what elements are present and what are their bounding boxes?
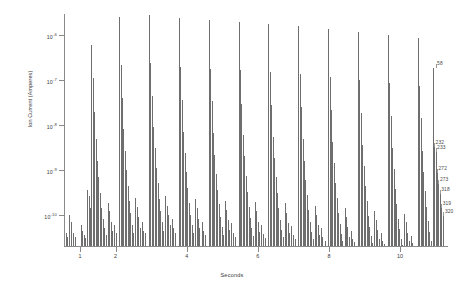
y-tick-label: 10-8 xyxy=(0,122,57,130)
spike xyxy=(85,238,86,246)
spike xyxy=(342,241,343,246)
spike xyxy=(289,233,290,246)
spike xyxy=(443,215,444,246)
spike xyxy=(233,233,234,246)
y-tick-label: 10-6 xyxy=(0,32,57,40)
spike xyxy=(143,231,144,246)
x-tick-label: 1 xyxy=(70,253,90,259)
spike xyxy=(412,243,413,246)
spike xyxy=(229,230,230,246)
spike xyxy=(283,237,284,246)
spike xyxy=(199,228,200,246)
spike xyxy=(170,225,171,246)
spike-series xyxy=(64,14,448,246)
annotation-label: 319 xyxy=(443,201,451,206)
spike xyxy=(382,241,383,246)
y-tick-label: 10-9 xyxy=(0,167,57,175)
annotation-label: 233 xyxy=(437,145,445,150)
x-tick xyxy=(329,247,330,252)
x-tick xyxy=(116,247,117,252)
x-tick xyxy=(400,247,401,252)
spike xyxy=(295,239,296,246)
spike xyxy=(384,244,385,246)
annotation-label: 318 xyxy=(441,187,449,192)
spike xyxy=(354,242,355,246)
spike xyxy=(133,233,134,246)
spike xyxy=(372,243,373,246)
spike xyxy=(73,233,74,246)
spike xyxy=(106,235,107,246)
spike xyxy=(325,241,326,246)
y-tick-label: 10-10 xyxy=(0,212,57,220)
spike xyxy=(263,234,264,246)
x-axis-line xyxy=(64,246,448,247)
spike xyxy=(203,231,204,246)
spike xyxy=(205,235,206,246)
spike xyxy=(173,228,174,246)
annotation-label: 272 xyxy=(439,166,447,171)
spike xyxy=(409,241,410,246)
spike xyxy=(67,237,68,246)
spike xyxy=(319,235,320,246)
spike xyxy=(322,237,323,246)
annotation-label: 58 xyxy=(437,61,443,66)
spike xyxy=(402,245,403,246)
x-tick-label: 10 xyxy=(390,253,410,259)
x-tick-label: 8 xyxy=(319,253,339,259)
spike xyxy=(75,237,76,246)
annotation-label: 320 xyxy=(445,209,453,214)
spike xyxy=(163,231,164,246)
spike xyxy=(431,241,432,246)
spike xyxy=(112,231,113,246)
spike xyxy=(71,222,72,246)
spike xyxy=(145,233,146,246)
spike xyxy=(352,239,353,246)
x-axis-title: Seconds xyxy=(0,272,464,278)
chart-root: Ion Current (Amperes) 10-610-710-810-910… xyxy=(0,0,464,295)
spike xyxy=(293,235,294,246)
x-tick-label: 6 xyxy=(248,253,268,259)
x-tick-label: 4 xyxy=(177,253,197,259)
x-tick xyxy=(258,247,259,252)
spike xyxy=(349,237,350,246)
y-axis-title: Ion Current (Amperes) xyxy=(27,39,33,159)
plot-area xyxy=(64,14,448,246)
spike xyxy=(441,207,442,246)
x-tick-label: 2 xyxy=(106,253,126,259)
spike xyxy=(265,238,266,246)
spike xyxy=(253,236,254,246)
spike xyxy=(235,237,236,246)
spike xyxy=(379,239,380,246)
spike xyxy=(223,235,224,246)
spike xyxy=(313,239,314,246)
spike xyxy=(259,232,260,246)
spike xyxy=(116,233,117,246)
annotation-label: 273 xyxy=(440,177,448,182)
y-tick-label: 10-7 xyxy=(0,77,57,85)
spike xyxy=(193,233,194,246)
spike xyxy=(175,233,176,246)
x-tick xyxy=(80,247,81,252)
x-tick xyxy=(187,247,188,252)
spike xyxy=(140,228,141,246)
